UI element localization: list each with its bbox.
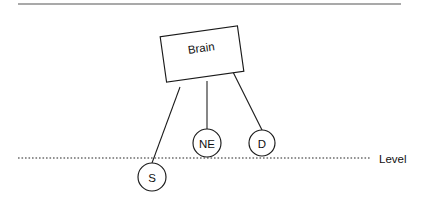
link-brain-to-d: [233, 72, 262, 130]
node-d-label: D: [258, 138, 266, 150]
link-brain-to-s: [152, 87, 180, 163]
node-s[interactable]: S: [138, 163, 166, 191]
brain-box-outline: [160, 26, 244, 82]
brain-box[interactable]: Brain: [160, 26, 244, 82]
node-d[interactable]: D: [249, 130, 275, 156]
node-ne-label: NE: [199, 138, 215, 150]
level-label: Level: [379, 153, 407, 165]
brain-level-diagram: Brain S NE D Level: [0, 0, 421, 207]
diagram-canvas: Brain S NE D Level: [0, 0, 421, 207]
node-ne[interactable]: NE: [193, 129, 221, 157]
node-s-label: S: [148, 172, 156, 184]
